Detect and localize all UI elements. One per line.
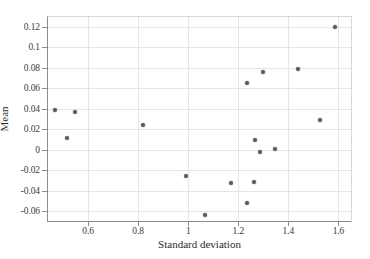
- y-axis-tick: [42, 150, 47, 151]
- y-axis-tick-label: -0.02: [21, 165, 40, 175]
- y-axis-tick: [42, 170, 47, 171]
- y-axis-tick-label: -0.06: [21, 206, 40, 216]
- y-axis-tick: [42, 47, 47, 48]
- scatter-chart-figure: 0.120.10.080.060.040.020-0.02-0.04-0.060…: [0, 0, 370, 259]
- x-gridline: [188, 17, 189, 221]
- x-gridline: [338, 17, 339, 221]
- y-axis-tick: [42, 88, 47, 89]
- y-gridline: [48, 191, 351, 192]
- y-gridline: [48, 170, 351, 171]
- y-gridline: [48, 68, 351, 69]
- y-axis-tick: [42, 129, 47, 130]
- y-axis-tick-label: 0.1: [28, 42, 40, 52]
- data-point: [273, 147, 277, 151]
- data-point: [258, 150, 262, 154]
- data-point: [261, 70, 265, 74]
- x-axis-tick-label: 0.8: [132, 226, 144, 236]
- y-axis-tick-label: 0.12: [24, 22, 40, 32]
- y-axis-tick: [42, 68, 47, 69]
- data-point: [245, 81, 249, 85]
- x-axis-tick-label: 1: [186, 226, 191, 236]
- y-gridline: [48, 150, 351, 151]
- x-gridline: [88, 17, 89, 221]
- data-point: [53, 108, 57, 112]
- data-point: [253, 138, 257, 142]
- y-axis-tick: [42, 27, 47, 28]
- data-point: [73, 110, 77, 114]
- y-axis-tick: [42, 109, 47, 110]
- data-point: [245, 201, 249, 205]
- x-axis-tick-label: 0.6: [82, 226, 94, 236]
- x-axis-tick-label: 1.4: [283, 226, 295, 236]
- y-gridline: [48, 27, 351, 28]
- y-gridline: [48, 211, 351, 212]
- y-axis-tick-label: 0.06: [24, 83, 40, 93]
- y-axis-tick-label: -0.04: [21, 186, 40, 196]
- data-point: [141, 123, 145, 127]
- data-point: [65, 136, 69, 140]
- y-axis-tick-label: 0: [35, 145, 40, 155]
- y-axis-tick-label: 0.04: [24, 104, 40, 114]
- y-gridline: [48, 129, 351, 130]
- y-gridline: [48, 109, 351, 110]
- data-point: [296, 67, 300, 71]
- x-gridline: [238, 17, 239, 221]
- data-point: [333, 25, 337, 29]
- x-axis-tick-label: 1.6: [333, 226, 345, 236]
- y-axis-tick-label: 0.02: [24, 124, 40, 134]
- y-gridline: [48, 88, 351, 89]
- x-axis-tick-label: 1.2: [233, 226, 245, 236]
- data-point: [252, 180, 256, 184]
- data-point: [229, 181, 233, 185]
- y-axis-tick: [42, 211, 47, 212]
- data-point: [203, 213, 207, 217]
- x-axis-title: Standard deviation: [47, 238, 352, 250]
- data-point: [318, 118, 322, 122]
- x-gridline: [138, 17, 139, 221]
- y-gridline: [48, 47, 351, 48]
- y-axis-tick: [42, 191, 47, 192]
- x-gridline: [288, 17, 289, 221]
- plot-area: 0.120.10.080.060.040.020-0.02-0.04-0.060…: [47, 16, 352, 222]
- y-axis-tick-label: 0.08: [24, 63, 40, 73]
- y-axis-title: Mean: [0, 106, 10, 131]
